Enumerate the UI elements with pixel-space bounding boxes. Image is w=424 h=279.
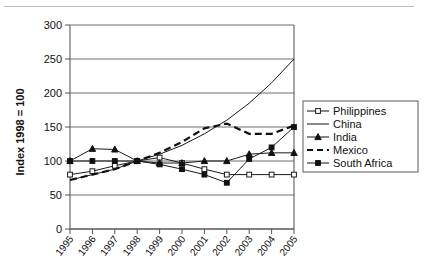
marker-south-africa-1996 (90, 159, 95, 164)
chart-canvas: 050100150200250300 199519961997199819992… (0, 0, 424, 279)
y-axis-ticks: 050100150200250300 (44, 19, 70, 235)
legend-label-china: China (333, 118, 363, 130)
marker-south-africa-2005 (292, 125, 297, 130)
marker-philippines-2001 (202, 167, 207, 172)
marker-south-africa-2000 (180, 167, 185, 172)
legend-label-philippines: Philippines (333, 105, 387, 117)
marker-philippines-1995 (68, 172, 73, 177)
x-tick-label-2003: 2003 (232, 233, 255, 258)
x-tick-label-2002: 2002 (210, 233, 233, 258)
y-tick-label-0: 0 (56, 223, 62, 235)
data-series-group (67, 59, 297, 185)
marker-philippines-2004 (269, 172, 274, 177)
legend-marker-filled-square (316, 161, 321, 166)
x-tick-label-1996: 1996 (76, 233, 99, 258)
y-tick-label-50: 50 (50, 189, 62, 201)
x-tick-label-1997: 1997 (98, 233, 121, 258)
x-tick-label-1999: 1999 (143, 233, 166, 258)
marker-south-africa-1995 (68, 159, 73, 164)
chart-legend: PhilippinesChinaIndiaMexicoSouth Africa (303, 101, 418, 172)
x-tick-label-2005: 2005 (277, 233, 300, 258)
y-tick-label-300: 300 (44, 19, 62, 31)
y-tick-label-200: 200 (44, 87, 62, 99)
y-tick-label-150: 150 (44, 121, 62, 133)
marker-south-africa-1997 (112, 159, 117, 164)
marker-south-africa-2003 (247, 157, 252, 162)
marker-philippines-1996 (90, 169, 95, 174)
y-tick-label-100: 100 (44, 155, 62, 167)
y-axis-label: Index 1998 = 100 (14, 88, 26, 175)
x-tick-label-1998: 1998 (120, 233, 143, 258)
x-tick-label-2000: 2000 (165, 233, 188, 258)
marker-south-africa-2004 (269, 145, 274, 150)
marker-philippines-2002 (224, 172, 229, 177)
gridlines-group (70, 25, 294, 229)
y-tick-label-250: 250 (44, 53, 62, 65)
marker-philippines-2003 (247, 172, 252, 177)
legend-label-south-africa: South Africa (333, 157, 393, 169)
legend-marker-open-square (316, 109, 321, 114)
legend-label-mexico: Mexico (333, 144, 368, 156)
x-axis-ticks: 1995199619971998199920002001200220032004… (53, 229, 300, 258)
marker-south-africa-2002 (224, 180, 229, 185)
x-tick-label-2001: 2001 (188, 233, 211, 258)
line-chart: 050100150200250300 199519961997199819992… (0, 0, 424, 279)
x-tick-label-2004: 2004 (255, 233, 278, 258)
x-tick-label-1995: 1995 (53, 233, 76, 258)
marker-philippines-2005 (292, 172, 297, 177)
marker-south-africa-2001 (202, 172, 207, 177)
marker-south-africa-1999 (157, 162, 162, 167)
legend-label-india: India (333, 131, 358, 143)
marker-south-africa-1998 (135, 159, 140, 164)
